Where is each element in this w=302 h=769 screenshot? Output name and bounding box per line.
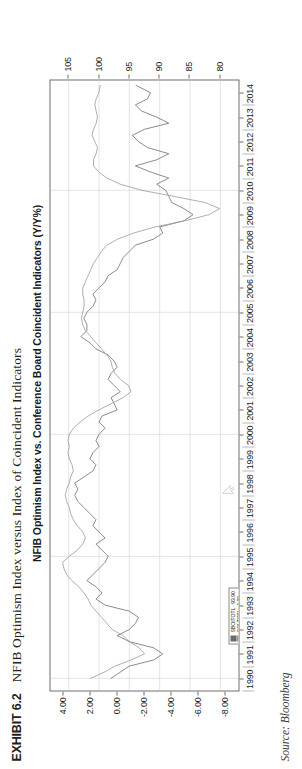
x-axis-year-label: 2006 — [244, 279, 254, 298]
x-axis-year-tick — [239, 165, 243, 166]
x-axis-year-label: 2012 — [244, 132, 254, 151]
y-axis-right-tick-label: 80 — [214, 61, 224, 71]
x-axis-year-separator — [242, 544, 254, 545]
x-axis-year-separator — [242, 373, 254, 374]
x-axis-year-tick — [239, 580, 243, 581]
y-axis-left-tick-label: 4.00 — [57, 697, 67, 714]
y-axis-left-tick-label: 0.00 — [111, 697, 121, 714]
x-axis-year-tick — [239, 336, 243, 337]
x-axis-year-label: 2004 — [244, 328, 254, 347]
x-axis-year-separator — [242, 470, 254, 471]
plot-area: SBOITOTL 93.90 COI TOTL 1.30 — [49, 79, 239, 691]
x-axis-year-label: 1991 — [244, 645, 254, 664]
x-axis-year-tick — [239, 629, 243, 630]
x-axis-year-tick — [239, 434, 243, 435]
legend-swatch-sboitotl — [230, 635, 236, 641]
y-axis-right-tick-label: 85 — [183, 61, 193, 71]
x-axis-year-tick — [239, 263, 243, 264]
y-axis-right-tick-label: 95 — [123, 61, 133, 71]
y-axis-left-tick-mark — [116, 691, 117, 695]
x-axis-year-label: 2001 — [244, 401, 254, 420]
y-axis-left-tick-label: -6.00 — [192, 697, 202, 717]
x-axis-year-label: 2010 — [244, 181, 254, 200]
x-axis-year-label: 2002 — [244, 376, 254, 395]
x-axis-years: 1990199119921993199419951996199719981999… — [239, 79, 261, 691]
y-axis-left-tick-mark — [143, 691, 144, 695]
x-axis-year-tick — [239, 385, 243, 386]
y-axis-right-tick-mark — [67, 74, 68, 78]
x-axis-year-separator — [242, 251, 254, 252]
x-axis-year-separator — [242, 104, 254, 105]
y-axis-left-tick-label: 2.00 — [84, 697, 94, 714]
x-axis-year-separator — [242, 617, 254, 618]
rotated-page-stage: EXHIBIT 6.2 NFIB Optimism Index versus I… — [0, 0, 302, 769]
x-axis-year-label: 1993 — [244, 596, 254, 615]
x-axis-year-separator — [242, 495, 254, 496]
y-axis-right-tick-label: 105 — [62, 57, 72, 71]
y-axis-left-tick-mark — [224, 691, 225, 695]
x-axis-year-label: 1996 — [244, 523, 254, 542]
x-axis-year-separator — [242, 348, 254, 349]
y-axis-right-tick-label: 90 — [153, 61, 163, 71]
x-axis-year-tick — [239, 458, 243, 459]
y-axis-right-tick-mark — [188, 74, 189, 78]
x-axis-year-separator — [242, 568, 254, 569]
y-axis-left-tick-mark — [197, 691, 198, 695]
y-axis-left-tick-label: -2.00 — [138, 697, 148, 717]
x-axis-year-tick — [239, 214, 243, 215]
x-axis-year-tick — [239, 239, 243, 240]
x-axis-year-label: 2013 — [244, 108, 254, 127]
x-axis-year-separator — [242, 129, 254, 130]
x-axis-year-tick — [239, 507, 243, 508]
y-axis-right-tick-mark — [98, 74, 99, 78]
x-axis-year-label: 1994 — [244, 572, 254, 591]
x-axis-year-label: 2000 — [244, 425, 254, 444]
x-axis-year-separator — [242, 397, 254, 398]
y-axis-left: 4.002.000.00-2.00-4.00-6.00-8.00 — [49, 691, 239, 733]
x-axis-year-tick — [239, 287, 243, 288]
x-axis-year-separator — [242, 153, 254, 154]
cursor-arrow-icon — [222, 484, 234, 494]
y-axis-left-tick-label: -4.00 — [165, 697, 175, 717]
plot-svg — [50, 80, 238, 690]
x-axis-year-separator — [242, 226, 254, 227]
x-axis-year-separator — [242, 690, 254, 691]
x-axis-year-separator — [242, 641, 254, 642]
x-axis-year-separator — [242, 666, 254, 667]
x-axis-year-tick — [239, 190, 243, 191]
y-axis-left-tick-mark — [89, 691, 90, 695]
x-axis-year-label: 2009 — [244, 206, 254, 225]
x-axis-year-label: 1999 — [244, 450, 254, 469]
x-axis-year-label: 1992 — [244, 620, 254, 639]
y-axis-right: 10510095908580 — [49, 32, 239, 78]
x-axis-year-tick — [239, 653, 243, 654]
chart-legend: SBOITOTL 93.90 COI TOTL 1.30 — [228, 587, 239, 644]
x-axis-year-separator — [242, 446, 254, 447]
x-axis-year-separator — [242, 519, 254, 520]
x-axis-year-label: 2007 — [244, 254, 254, 273]
x-axis-year-separator — [242, 300, 254, 301]
y-axis-left-tick-mark — [170, 691, 171, 695]
x-axis-year-separator — [242, 592, 254, 593]
x-axis-year-tick — [239, 92, 243, 93]
x-axis-year-tick — [239, 361, 243, 362]
x-axis-year-label: 1998 — [244, 474, 254, 493]
x-axis-year-tick — [239, 678, 243, 679]
exhibit-title: NFIB Optimism Index versus Index of Coin… — [8, 348, 23, 683]
x-axis-year-tick — [239, 409, 243, 410]
x-axis-year-tick — [239, 531, 243, 532]
x-axis-year-label: 1990 — [244, 669, 254, 688]
exhibit-header: EXHIBIT 6.2 NFIB Optimism Index versus I… — [6, 21, 24, 761]
x-axis-year-tick — [239, 312, 243, 313]
x-axis-year-label: 2014 — [244, 84, 254, 103]
x-axis-year-separator — [242, 422, 254, 423]
y-axis-right-tick-label: 100 — [93, 57, 103, 71]
chart-title: NFIB Optimism Index vs. Conference Board… — [30, 33, 42, 733]
x-axis-year-tick — [239, 141, 243, 142]
figure-page: EXHIBIT 6.2 NFIB Optimism Index versus I… — [0, 0, 302, 769]
x-axis-year-label: 1997 — [244, 498, 254, 517]
x-axis-year-tick — [239, 605, 243, 606]
x-axis-year-label: 2003 — [244, 352, 254, 371]
y-axis-right-tick-mark — [219, 74, 220, 78]
y-axis-left-tick-label: -8.00 — [219, 697, 229, 717]
